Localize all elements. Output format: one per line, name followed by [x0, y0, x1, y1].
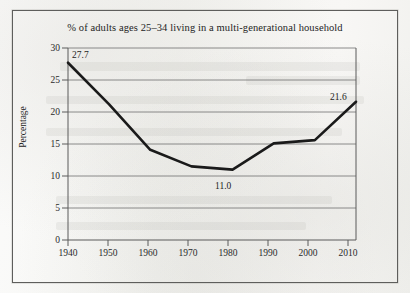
- chart-canvas: [0, 0, 410, 293]
- gridlines: [68, 48, 356, 208]
- plot-area: Percentage 30 25 20 15 10 5 0 1940 1950 …: [0, 0, 410, 293]
- figure-page: % of adults ages 25–34 living in a multi…: [0, 0, 410, 293]
- y-axis-ticks: [62, 48, 68, 240]
- data-series-line: [68, 63, 356, 170]
- x-axis-ticks: [68, 240, 348, 246]
